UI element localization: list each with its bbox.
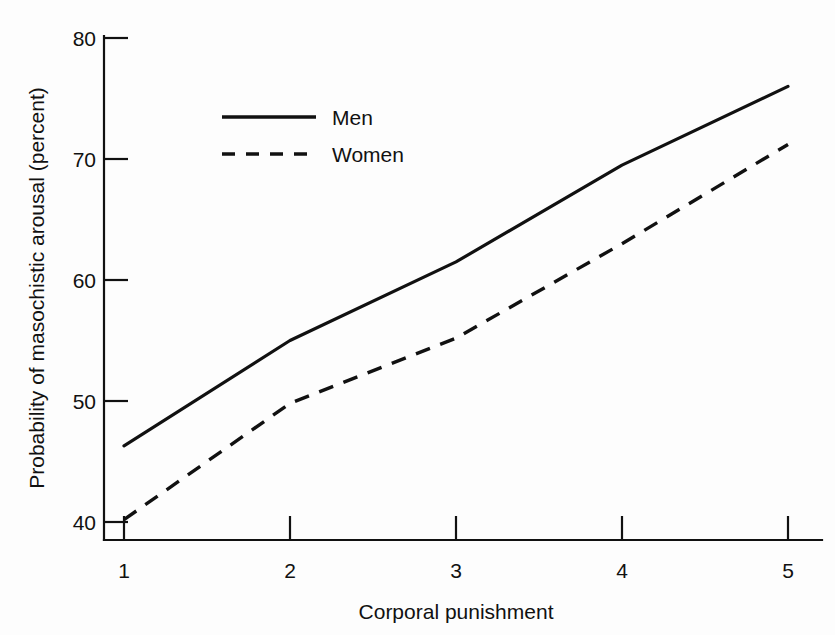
x-tick-label-2: 2 (284, 559, 296, 582)
legend-label-men: Men (332, 106, 373, 129)
series-line-women (124, 145, 788, 520)
x-axis-title: Corporal punishment (359, 600, 554, 623)
x-tick-labels: 1 2 3 4 5 (118, 559, 794, 582)
axis-group (104, 36, 822, 540)
y-tick-label-70: 70 (73, 148, 96, 171)
y-tick-label-80: 80 (73, 27, 96, 50)
x-tick-label-1: 1 (118, 559, 130, 582)
legend-label-women: Women (332, 143, 404, 166)
chart-figure: 80 70 60 50 40 1 2 3 4 5 Corporal punish… (0, 0, 835, 635)
y-axis-title: Probability of masochistic arousal (perc… (25, 87, 48, 489)
y-tick-label-40: 40 (73, 511, 96, 534)
y-tick-label-60: 60 (73, 269, 96, 292)
chart-legend: Men Women (222, 106, 404, 166)
series-line-men (124, 86, 788, 445)
data-series-group (124, 86, 788, 519)
x-tick-label-4: 4 (616, 559, 628, 582)
y-tick-labels: 80 70 60 50 40 (73, 27, 96, 534)
line-chart: 80 70 60 50 40 1 2 3 4 5 Corporal punish… (0, 0, 835, 635)
x-tick-label-3: 3 (450, 559, 462, 582)
y-tick-marks (104, 38, 128, 522)
x-tick-label-5: 5 (782, 559, 794, 582)
y-tick-label-50: 50 (73, 390, 96, 413)
x-tick-marks (124, 516, 788, 540)
